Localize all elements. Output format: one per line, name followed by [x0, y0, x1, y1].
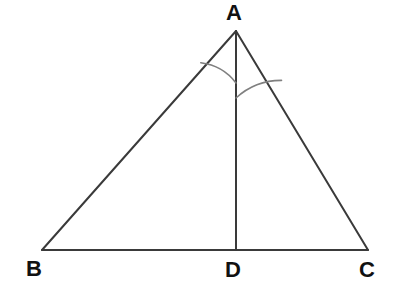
- vertex-label-d: D: [225, 259, 241, 281]
- triangle-diagram-canvas: [0, 0, 397, 303]
- segment-AC: [236, 31, 368, 250]
- geometry-figure: A B D C: [0, 0, 397, 303]
- vertex-label-c: C: [359, 259, 375, 281]
- vertex-label-a: A: [226, 2, 242, 24]
- vertex-label-b: B: [26, 258, 42, 280]
